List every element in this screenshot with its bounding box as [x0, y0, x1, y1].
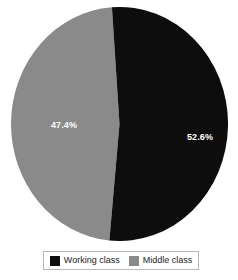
legend-label-working-class: Working class: [64, 256, 120, 265]
pie-graphic: 47.4% 52.6%: [11, 7, 228, 241]
pie-label-middle-class: 47.4%: [51, 120, 77, 130]
legend-swatch-middle-class: [129, 256, 139, 266]
pie-slice-working-class[interactable]: [109, 7, 228, 241]
legend: Working class Middle class: [43, 251, 199, 270]
legend-item-middle-class[interactable]: Middle class: [129, 256, 193, 266]
legend-label-middle-class: Middle class: [143, 256, 193, 265]
pie-chart: 47.4% 52.6% Working class Middle class: [0, 0, 238, 280]
pie-svg: [11, 7, 228, 241]
legend-swatch-working-class: [50, 256, 60, 266]
legend-item-working-class[interactable]: Working class: [50, 256, 120, 266]
pie-label-working-class: 52.6%: [187, 132, 213, 142]
